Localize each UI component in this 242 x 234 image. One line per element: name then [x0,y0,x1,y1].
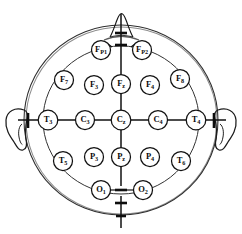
electrode-label-P4: P4 [146,152,154,163]
electrode-label-C4: C4 [153,115,162,126]
eeg-electrode-diagram: FP1 FP2 F7 F3 Fz F4 F8 T3 C3 Cz C4 T4 T5… [0,0,242,234]
electrode-label-T5: T5 [59,156,68,167]
electrode-label-Cz: Cz [117,115,126,126]
electrode-label-F7: F7 [60,75,68,86]
electrode-label-F8: F8 [176,74,184,85]
scan-artifact [225,2,230,9]
electrode-label-Fp1: FP1 [95,45,107,56]
electrode-label-O1: O1 [96,185,106,196]
electrode-label-F4: F4 [146,80,154,91]
electrode-label-P3: P3 [90,152,98,163]
electrode-label-T6: T6 [177,156,186,167]
electrode-label-F3: F3 [90,80,98,91]
electrode-label-C3: C3 [80,115,89,126]
electrode-label-Pz: Pz [117,152,125,163]
electrode-label-Fp2: FP2 [136,45,148,56]
electrode-label-T4: T4 [192,115,201,126]
electrode-label-Fz: Fz [117,79,125,90]
electrode-label-O2: O2 [138,185,148,196]
electrode-label-T3: T3 [44,115,53,126]
